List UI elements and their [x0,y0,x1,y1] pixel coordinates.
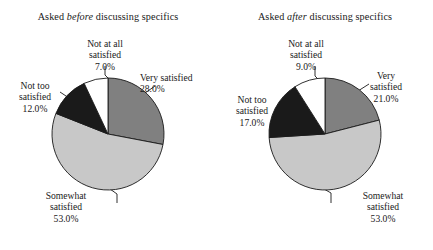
label-line: satisfied [62,49,148,60]
label-line: Somewhat [18,190,114,201]
label-line: 28.0% [140,83,192,94]
pie-chart-figure: Asked before discussing specifics Very s… [0,0,433,250]
label-not-too-satisfied-after: Not toosatisfied17.0% [217,94,287,128]
label-line: satisfied [18,201,114,212]
label-very-satisfied-after: Verysatisfied21.0% [347,70,425,104]
label-line: satisfied [217,105,287,116]
label-line: 17.0% [217,117,287,128]
label-line: 21.0% [347,93,425,104]
label-line: satisfied [0,91,70,102]
label-line: 12.0% [0,103,70,114]
label-line: Very satisfied [140,72,192,83]
leader-somewhat [324,189,331,203]
label-line: satisfied [347,81,425,92]
chart-panel-after: Asked after discussing specifics Verysat… [217,0,433,250]
label-line: satisfied [263,49,349,60]
label-line: Not too [0,80,70,91]
label-not-at-all-satisfied-before: Not at allsatisfied7.0% [62,38,148,72]
label-line: 53.0% [335,213,431,224]
label-line: satisfied [335,201,431,212]
label-not-too-satisfied-before: Not toosatisfied12.0% [0,80,70,114]
label-line: Not at all [62,38,148,49]
label-very-satisfied-before: Very satisfied28.0% [140,72,192,95]
chart-panel-before: Asked before discussing specifics Very s… [0,0,216,250]
label-line: Somewhat [335,190,431,201]
label-line: 9.0% [263,61,349,72]
label-line: Very [347,70,425,81]
label-somewhat-satisfied-before: Somewhatsatisfied53.0% [18,190,114,224]
label-not-at-all-satisfied-after: Not at allsatisfied9.0% [263,38,349,72]
label-line: Not at all [263,38,349,49]
label-somewhat-satisfied-after: Somewhatsatisfied53.0% [335,190,431,224]
label-line: 53.0% [18,213,114,224]
label-line: 7.0% [62,61,148,72]
label-line: Not too [217,94,287,105]
